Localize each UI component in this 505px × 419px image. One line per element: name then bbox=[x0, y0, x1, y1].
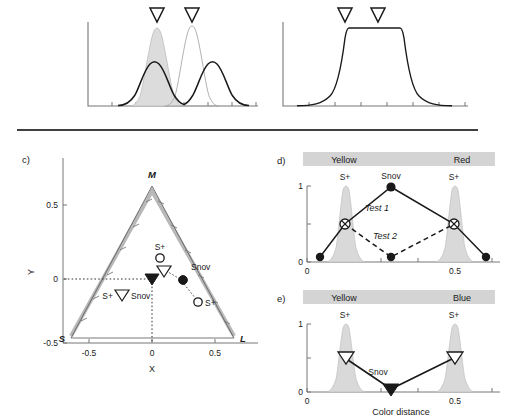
panel-b-plateau-curve bbox=[297, 28, 452, 106]
panel-d: d) Yellow Red 1 0 0 0.5 bbox=[277, 152, 500, 276]
panel-c-marker-open-triangle-upper bbox=[157, 266, 171, 277]
panel-e-xlabel: Color distance bbox=[372, 407, 430, 417]
panel-a-arrow-markers bbox=[150, 8, 199, 22]
panel-c-label-snov-left: Snov bbox=[131, 291, 151, 301]
panel-c-letter: c) bbox=[22, 154, 30, 165]
figure-root: c) 0.5 0 -0.5 -0.5 0 0.5 X Y bbox=[0, 0, 505, 419]
panel-d-band-label-right: Red bbox=[454, 155, 471, 165]
panel-d-xtick-0: 0 bbox=[305, 266, 310, 276]
panel-e-xtick-0: 0 bbox=[305, 396, 310, 406]
panel-c-xtick-1: 0 bbox=[150, 348, 155, 358]
panel-d-yticks bbox=[307, 186, 311, 262]
panel-d-point-left-end bbox=[316, 253, 324, 261]
panel-d-label-snov: Snov bbox=[381, 171, 401, 181]
panel-d-label-s-plus-left: S+ bbox=[340, 172, 351, 182]
panel-d-band-label-left: Yellow bbox=[331, 155, 357, 165]
panel-a-top-left bbox=[88, 8, 258, 106]
panel-d-marker-crossed-left bbox=[340, 219, 350, 229]
panel-c-label-snov-right: Snov bbox=[191, 262, 211, 272]
panel-e-label-snov: Snov bbox=[368, 367, 388, 377]
panel-c-ytick-1: 0 bbox=[53, 274, 58, 284]
panel-c-vertex-s: S bbox=[59, 333, 66, 344]
panel-e-v-line bbox=[345, 358, 454, 389]
panel-c-ylabel: Y bbox=[26, 269, 36, 275]
panel-d-point-right-end bbox=[482, 253, 490, 261]
panel-c-connector-lower bbox=[184, 284, 196, 299]
panel-d-test2-line bbox=[345, 224, 454, 257]
panel-c-marker-open-circle-upper bbox=[156, 254, 164, 262]
panel-e-label-s-plus-left: S+ bbox=[340, 310, 351, 320]
panel-d-point-snov-bottom bbox=[387, 253, 395, 261]
panel-c-xtick-2: 0.5 bbox=[209, 348, 221, 358]
panel-c-xtick-0: -0.5 bbox=[82, 348, 97, 358]
panel-e-band-label-left: Yellow bbox=[331, 293, 357, 303]
panel-c-marker-filled-circle-snov bbox=[179, 276, 188, 285]
panel-c-vertex-l: L bbox=[240, 333, 246, 344]
panel-d-point-snov-top bbox=[386, 182, 395, 191]
down-triangle-icon bbox=[150, 8, 164, 22]
panel-d-ytick-0: 0 bbox=[298, 257, 303, 267]
panel-d-ytick-1: 1 bbox=[298, 181, 303, 191]
panel-a-dark-curve bbox=[118, 62, 249, 106]
panel-e: e) Yellow Blue 1 0 0 0.5 Color distance bbox=[277, 290, 500, 417]
panel-c-xlabel: X bbox=[149, 364, 155, 374]
panel-e-marker-filled-triangle-snov bbox=[383, 384, 399, 396]
panel-e-ytick-1: 1 bbox=[298, 319, 303, 329]
panel-c-yticks bbox=[63, 205, 67, 343]
panel-d-label-test1: Test 1 bbox=[365, 203, 389, 213]
panel-b-top-right bbox=[283, 8, 468, 106]
panel-c-marker-open-circle-lower bbox=[194, 298, 202, 306]
panel-d-letter: d) bbox=[277, 155, 285, 166]
panel-e-letter: e) bbox=[277, 293, 285, 304]
panel-c-marker-filled-triangle-snov bbox=[145, 274, 159, 285]
down-triangle-icon bbox=[371, 8, 385, 22]
panel-e-yticks bbox=[307, 324, 311, 392]
figure-svg: c) 0.5 0 -0.5 -0.5 0 0.5 X Y bbox=[0, 0, 505, 419]
panel-c-marker-open-triangle-left bbox=[115, 290, 129, 301]
panel-b-arrow-markers bbox=[338, 8, 385, 22]
panel-e-ytick-0: 0 bbox=[298, 387, 303, 397]
panel-d-marker-crossed-right bbox=[449, 219, 459, 229]
panel-c-label-s-plus-lower: S+ bbox=[205, 298, 216, 308]
panel-c-ytick-0: 0.5 bbox=[46, 200, 58, 210]
panel-b-axes bbox=[283, 22, 468, 106]
panel-c-label-s-plus-upper: S+ bbox=[155, 242, 166, 252]
panel-e-xtick-1: 0.5 bbox=[449, 396, 461, 406]
panel-e-band-label-right: Blue bbox=[453, 293, 471, 303]
panel-c: c) 0.5 0 -0.5 -0.5 0 0.5 X Y bbox=[22, 154, 258, 374]
panel-d-label-test2: Test 2 bbox=[373, 231, 397, 241]
down-triangle-icon bbox=[338, 8, 352, 22]
panel-d-label-s-plus-right: S+ bbox=[449, 172, 460, 182]
panel-e-label-s-plus-right: S+ bbox=[449, 310, 460, 320]
panel-d-xtick-1: 0.5 bbox=[449, 266, 461, 276]
panel-c-label-s-plus-left: S+ bbox=[102, 291, 113, 301]
panel-c-vertex-m: M bbox=[148, 169, 157, 180]
down-triangle-icon bbox=[185, 8, 199, 22]
panel-c-ytick-2: -0.5 bbox=[43, 338, 58, 348]
